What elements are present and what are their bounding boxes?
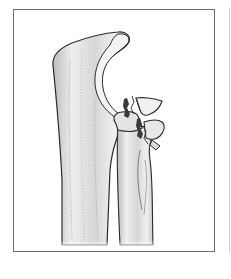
radial-head-fragment xyxy=(136,98,162,116)
elbow-fracture-illustration xyxy=(0,0,231,279)
